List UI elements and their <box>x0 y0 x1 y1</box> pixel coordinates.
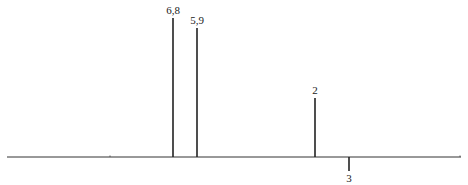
peak: 5,9 <box>190 14 204 157</box>
peak-label: 3 <box>346 172 352 184</box>
peak: 6,8 <box>166 4 180 157</box>
peak-label: 2 <box>312 84 318 96</box>
peak-label: 5,9 <box>190 14 204 26</box>
peak: 3 <box>346 157 352 184</box>
spectrum-plot: 6,85,923 <box>0 0 468 185</box>
peak: 2 <box>312 84 318 157</box>
peak-label: 6,8 <box>166 4 180 16</box>
